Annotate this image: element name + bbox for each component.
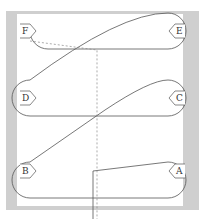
label-f: F (22, 26, 28, 36)
loop-top (30, 13, 186, 80)
dashed-path (30, 41, 97, 219)
diagram-svg: F E D C B A (0, 0, 205, 219)
label-e: E (176, 26, 183, 36)
connector-d-b (30, 110, 105, 162)
label-c: C (176, 93, 183, 103)
loop-bottom (12, 162, 186, 219)
diagram-frame: F E D C B A (0, 0, 205, 219)
label-b: B (22, 166, 29, 176)
label-d: D (22, 93, 29, 103)
loop-middle (12, 80, 186, 116)
label-a: A (175, 166, 183, 176)
